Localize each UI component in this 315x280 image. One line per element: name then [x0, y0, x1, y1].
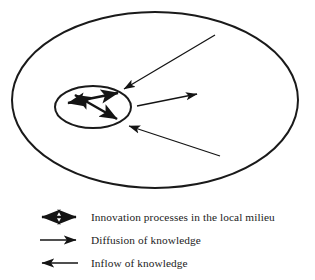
diagram-canvas — [0, 0, 315, 200]
double-headed-arrow-icon — [36, 206, 82, 228]
diffusion-arrow-middle — [137, 94, 197, 106]
figure-root: Innovation processes in the local milieu… — [0, 0, 315, 280]
legend-item: Inflow of knowledge — [0, 252, 315, 274]
left-arrow-icon — [36, 252, 82, 274]
legend-item: Innovation processes in the local milieu — [0, 206, 315, 228]
legend-item-label: Diffusion of knowledge — [91, 229, 201, 251]
legend-item: Diffusion of knowledge — [0, 229, 315, 251]
legend-item-label: Innovation processes in the local milieu — [91, 206, 275, 228]
inner-ellipse — [55, 86, 131, 128]
inflow-arrow-top — [124, 35, 215, 89]
legend-item-label: Inflow of knowledge — [91, 252, 188, 274]
outer-ellipse — [12, 12, 298, 188]
right-arrow-icon — [36, 229, 82, 251]
inflow-arrow-bottom — [129, 126, 220, 156]
legend: Innovation processes in the local milieu… — [0, 200, 315, 280]
